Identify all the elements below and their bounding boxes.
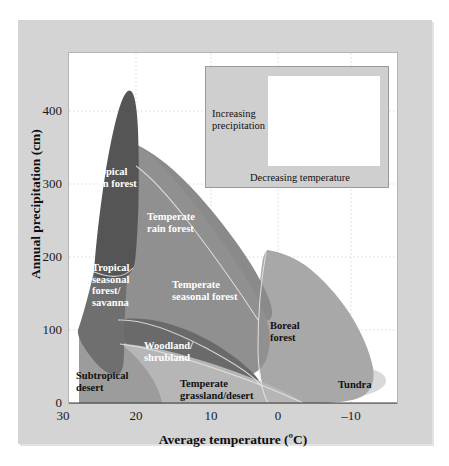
y-tick-100: 100: [26, 322, 62, 338]
x-tick-30: 30: [49, 408, 77, 424]
x-tick-10: 10: [197, 408, 225, 424]
y-tick-400: 400: [26, 103, 62, 119]
inset-x-axis-label: Decreasing temperature: [210, 172, 390, 184]
x-tick-neg10: –10: [337, 408, 365, 424]
region-tropical-rain-forest: [94, 90, 139, 279]
inset-y-axis-label: Increasing precipitation: [212, 108, 268, 132]
x-axis-title: Average temperature (ºC): [68, 432, 398, 448]
region-boreal-forest: [258, 250, 374, 403]
inset-plot-area: [268, 76, 380, 166]
y-axis-title: Annual precipitation (cm): [28, 124, 44, 284]
x-tick-0: 0: [264, 408, 292, 424]
x-tick-20: 20: [122, 408, 150, 424]
biome-diagram-figure: 400 300 200 100 0 30 20 10 0 –10 Annual …: [0, 0, 449, 466]
